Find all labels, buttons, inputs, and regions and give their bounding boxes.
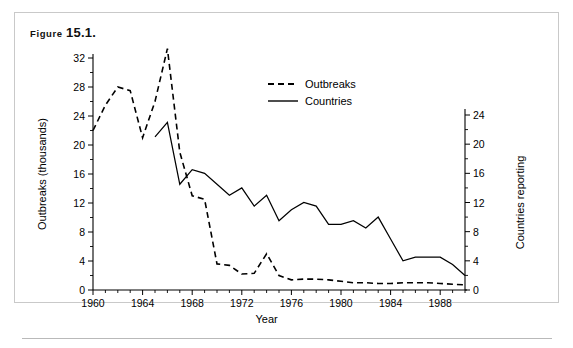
- line-chart: 0481216202428320481216202419601964196819…: [0, 0, 573, 348]
- y-ticklabel-right: 12: [473, 197, 485, 209]
- y-ticklabel-left: 24: [73, 110, 85, 122]
- y-ticklabel-left: 0: [79, 284, 85, 296]
- x-ticklabel: 1984: [379, 297, 403, 309]
- x-ticklabel: 1964: [131, 297, 155, 309]
- legend-label-outbreaks: Outbreaks: [305, 78, 356, 90]
- figure-root: Figure 15.1. 048121620242832048121620241…: [0, 0, 573, 348]
- x-ticklabel: 1968: [181, 297, 205, 309]
- x-axis-title: Year: [255, 313, 278, 325]
- y-axis-title-right: Countries reporting: [514, 156, 526, 250]
- legend-label-countries: Countries: [305, 95, 353, 107]
- x-ticklabel: 1988: [429, 297, 453, 309]
- x-ticklabel: 1972: [230, 297, 254, 309]
- y-ticklabel-right: 20: [473, 138, 485, 150]
- y-ticklabel-right: 0: [473, 284, 479, 296]
- y-ticklabel-left: 16: [73, 168, 85, 180]
- y-ticklabel-left: 12: [73, 197, 85, 209]
- y-axis-title-left: Outbreaks (thousands): [36, 118, 48, 230]
- x-ticklabel: 1976: [280, 297, 304, 309]
- y-ticklabel-right: 16: [473, 167, 485, 179]
- y-ticklabel-left: 28: [73, 81, 85, 93]
- bottom-divider: [22, 338, 552, 339]
- y-ticklabel-left: 32: [73, 52, 85, 64]
- y-ticklabel-right: 4: [473, 255, 479, 267]
- y-ticklabel-left: 4: [79, 255, 85, 267]
- x-ticklabel: 1980: [329, 297, 353, 309]
- y-ticklabel-left: 8: [79, 226, 85, 238]
- y-ticklabel-left: 20: [73, 139, 85, 151]
- y-ticklabel-right: 8: [473, 226, 479, 238]
- y-ticklabel-right: 24: [473, 109, 485, 121]
- x-ticklabel: 1960: [81, 297, 105, 309]
